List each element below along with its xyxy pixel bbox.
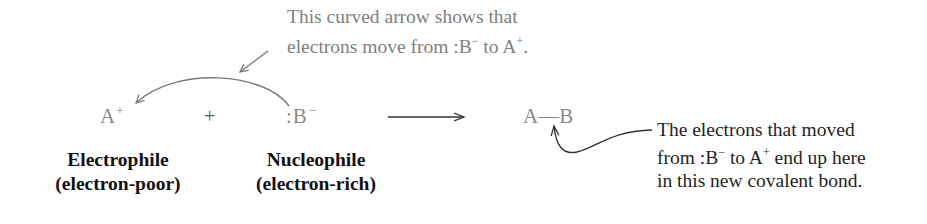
nucleophile-species: :B−: [286, 104, 317, 131]
positive-charge-inline: +: [763, 145, 770, 159]
top-annotation-line1: This curved arrow shows that: [287, 4, 528, 29]
top-annotation: This curved arrow shows that electrons m…: [287, 4, 528, 59]
bond-annotation-text: to A: [725, 147, 763, 168]
top-annotation-line2: electrons move from :B− to A+.: [287, 29, 528, 59]
nucleophile-symbol: :B: [286, 104, 308, 128]
electrophile-symbol: A: [100, 104, 115, 128]
product-species: A—B: [523, 104, 573, 128]
nucleophile-symbol-inline: :B: [453, 36, 471, 57]
product-atom-a: A: [523, 104, 538, 128]
electrophile-species: A+: [100, 104, 124, 131]
bond-annotation-text: end up here: [770, 147, 866, 168]
bond-annotation-line1: The electrons that moved: [657, 118, 866, 141]
bond-annotation: The electrons that moved from :B− to A+ …: [657, 118, 866, 192]
bond-annotation-line2: from :B− to A+ end up here: [657, 141, 866, 169]
covalent-bond: —: [538, 104, 559, 128]
negative-charge-inline: −: [718, 145, 725, 159]
bond-annotation-line3: in this new covalent bond.: [657, 169, 866, 192]
electrophile-label: Electrophile (electron-poor): [38, 148, 198, 196]
nucleophile-title: Nucleophile: [231, 148, 401, 172]
negative-charge: −: [309, 103, 317, 118]
top-annotation-text: .: [523, 36, 528, 57]
positive-charge: +: [116, 103, 123, 118]
nucleophile-symbol-inline: :B: [700, 147, 718, 168]
top-annotation-text: to A: [478, 36, 516, 57]
electrophile-subtitle: (electron-poor): [38, 172, 198, 196]
electron-flow-curved-arrow: [136, 78, 289, 106]
product-atom-b: B: [559, 104, 573, 128]
bond-pointer-curved-arrow: [554, 126, 652, 153]
annotation-pointer-arrow: [240, 51, 268, 72]
electrophile-title: Electrophile: [38, 148, 198, 172]
top-annotation-text: electrons move from: [287, 36, 453, 57]
nucleophile-label: Nucleophile (electron-rich): [231, 148, 401, 196]
nucleophile-subtitle: (electron-rich): [231, 172, 401, 196]
bond-annotation-text: from: [657, 147, 700, 168]
plus-operator: +: [204, 104, 215, 128]
